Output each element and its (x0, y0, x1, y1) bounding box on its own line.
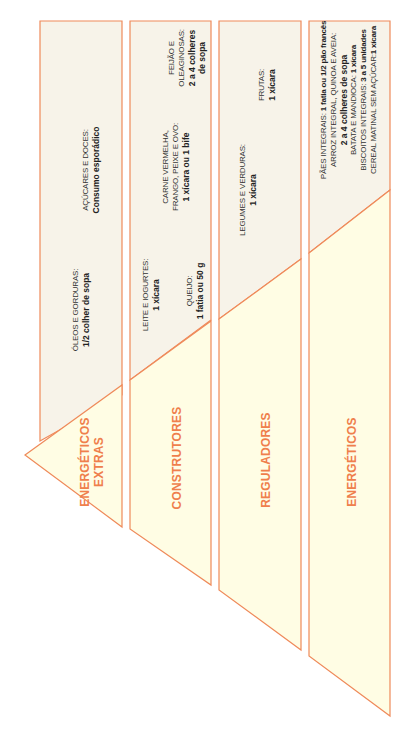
band-reguladores (219, 21, 301, 650)
item-label: LEGUMES E VERDURAS: (238, 144, 248, 236)
item-cereal-matinal: CEREAL MATINAL SEM AÇÚCAR:1 xícara (369, 21, 379, 179)
item-arroz-quinoa-aveia-label: ARROZ INTEGRAL, QUINOA E AVEIA: (329, 21, 339, 179)
item-leite-iogurtes: LEITE E IOGURTES: 1 xícara (141, 259, 161, 331)
item-label: CARNE VERMELHA, (161, 123, 171, 211)
item-amount: 1/2 colher de sopa (81, 269, 91, 351)
item-label: FEIJÃO E (167, 29, 177, 87)
item-label: ÓLEOS E GORDURAS: (71, 269, 81, 351)
item-batata-mandioca: BATATA E MANDIOCA: 1 xícara (349, 21, 359, 179)
item-label: FRANGO, PEIXE E OVO: (171, 123, 181, 211)
item-legumes-verduras: LEGUMES E VERDURAS: 1 xícara (238, 144, 258, 236)
category-reguladores: REGULADORES (259, 412, 273, 508)
item-biscoitos-integrais: BISCOITOS INTEGRAIS: 3 a 5 unidades (359, 21, 369, 179)
category-construtores: CONSTRUTORES (170, 407, 184, 510)
item-label: FRUTAS: (257, 69, 267, 101)
item-label: LEITE E IOGURTES: (141, 259, 151, 331)
item-oleos-gorduras: ÓLEOS E GORDURAS: 1/2 colher de sopa (71, 269, 91, 351)
item-label: OLEAGINOSAS: (177, 29, 187, 87)
item-paes-integrais: PÃES INTEGRAIS: 1 fatia ou 1/2 pão franc… (319, 21, 329, 179)
item-acucares-doces: AÇÚCARES E DOCES: Consumo esporádico (81, 127, 101, 214)
category-energeticos-extras: ENERGÉTICOS EXTRAS (78, 417, 106, 507)
item-amount: Consumo esporádico (91, 127, 101, 214)
item-arroz-quinoa-aveia-amount: 2 a 4 colheres de sopa (339, 21, 349, 179)
item-queijo: QUEIJO: 1 fatia ou 50 g (185, 263, 205, 320)
item-amount: 1 xícara ou 1 bife (181, 123, 191, 211)
item-label: AÇÚCARES E DOCES: (81, 127, 91, 214)
item-amount: 1 xícara (151, 259, 161, 331)
item-carne-frango-peixe-ovo: CARNE VERMELHA, FRANGO, PEIXE E OVO: 1 x… (161, 123, 191, 211)
item-feijao-oleaginosas: FEIJÃO E OLEAGINOSAS: 2 a 4 colheres de … (167, 29, 207, 87)
item-amount: 2 a 4 colheres (187, 29, 197, 87)
item-amount: 1 xícara (267, 69, 277, 101)
category-energeticos: ENERGÉTICOS (345, 417, 359, 507)
item-frutas: FRUTAS: 1 xícara (257, 69, 277, 101)
energeticos-items-block: PÃES INTEGRAIS: 1 fatia ou 1/2 pão franc… (319, 21, 379, 179)
item-label: QUEIJO: (185, 263, 195, 320)
item-amount: de sopa (197, 29, 207, 87)
item-amount: 1 fatia ou 50 g (195, 263, 205, 320)
item-amount: 1 xícara (248, 144, 258, 236)
